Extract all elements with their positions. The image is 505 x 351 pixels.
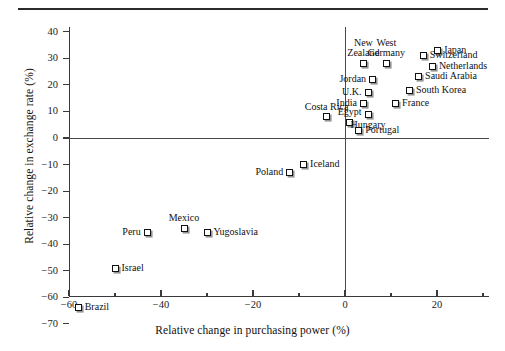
y-tick-mark	[63, 164, 69, 165]
data-point-marker	[429, 63, 436, 70]
data-point-label: Saudi Arabia	[425, 71, 477, 82]
x-tick-label: 0	[320, 299, 370, 310]
data-point-marker	[286, 169, 293, 176]
data-point-label: Hungary	[323, 120, 413, 131]
y-tick-mark	[63, 84, 69, 85]
y-tick-mark	[63, 31, 69, 32]
data-point-label: Mexico	[139, 213, 229, 224]
x-tick-label: −40	[136, 299, 186, 310]
x-tick-mark	[252, 290, 253, 296]
data-point-label: Egypt	[305, 107, 395, 118]
data-point-marker	[392, 100, 399, 107]
y-tick-mark	[63, 191, 69, 192]
data-point-label: India	[336, 98, 357, 109]
y-tick-mark	[63, 244, 69, 245]
data-point-label: France	[402, 98, 429, 109]
x-minor-tick-mark	[114, 293, 115, 297]
data-point-marker	[181, 225, 188, 232]
y-tick-mark	[63, 137, 69, 138]
data-point-marker	[360, 100, 367, 107]
y-tick-mark	[63, 58, 69, 59]
data-point-marker	[383, 60, 390, 67]
data-point-label: Yugoslavia	[214, 227, 258, 238]
x-tick-mark	[160, 290, 161, 296]
data-point-marker	[144, 229, 151, 236]
scatter-plot-figure: 403020100−10−20−30−40−50−60−70 −60−40−20…	[0, 0, 505, 351]
x-tick-mark	[68, 290, 69, 296]
data-point-label: Jordan	[339, 74, 366, 85]
x-tick-mark	[436, 290, 437, 296]
y-axis-line	[69, 27, 70, 296]
x-minor-tick-mark	[298, 293, 299, 297]
y-tick-mark	[63, 111, 69, 112]
y-tick-mark	[63, 297, 69, 298]
data-point-marker	[365, 111, 372, 118]
data-point-label: Iceland	[310, 159, 339, 170]
data-point-label: Brazil	[85, 302, 109, 313]
data-point-marker	[360, 60, 367, 67]
data-point-marker	[300, 161, 307, 168]
data-point-label: West Germany	[341, 38, 431, 59]
data-point-label: Israel	[122, 263, 144, 274]
y-tick-mark	[63, 217, 69, 218]
zero-horizontal-reference-line	[69, 138, 489, 139]
x-minor-tick-mark	[206, 293, 207, 297]
data-point-label: Poland	[256, 167, 284, 178]
data-point-marker	[415, 73, 422, 80]
x-tick-mark	[344, 290, 345, 296]
x-axis-line	[69, 296, 489, 297]
x-minor-tick-mark	[390, 293, 391, 297]
y-tick-mark	[63, 270, 69, 271]
data-point-marker	[204, 229, 211, 236]
y-axis-title: Relative change in exchange rate (%)	[23, 31, 35, 281]
data-point-marker	[112, 265, 119, 272]
x-tick-label: −20	[228, 299, 278, 310]
data-point-marker	[75, 304, 82, 311]
header-rule	[18, 8, 488, 10]
data-point-label: South Korea	[416, 85, 466, 96]
data-point-marker	[365, 89, 372, 96]
data-point-marker	[369, 76, 376, 83]
x-tick-label: 20	[412, 299, 462, 310]
data-point-marker	[420, 52, 427, 59]
x-axis-title: Relative change in purchasing power (%)	[0, 324, 505, 336]
data-point-label: U.K.	[342, 87, 361, 98]
x-minor-tick-mark	[482, 293, 483, 297]
data-point-label: Peru	[122, 227, 140, 238]
zero-vertical-reference-line	[345, 27, 346, 296]
data-point-marker	[406, 87, 413, 94]
